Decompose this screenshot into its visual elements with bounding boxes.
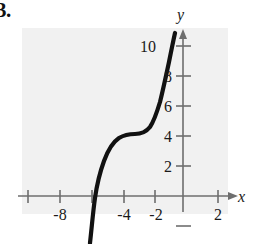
y-tick-label-4: 4 xyxy=(164,128,172,145)
graph-svg: x y 10 8 6 4 2 -8 -4 -2 2 xyxy=(0,0,258,244)
y-tick-label-6: 6 xyxy=(164,98,172,115)
x-tick-label-neg2: -2 xyxy=(149,206,162,223)
x-axis-label: x xyxy=(237,188,245,205)
figure-container: 3. xyxy=(0,0,258,244)
x-axis xyxy=(18,192,238,200)
x-tick-label-neg8: -8 xyxy=(53,206,66,223)
x-tick-label-2: 2 xyxy=(214,206,222,223)
y-tick-label-10: 10 xyxy=(140,38,156,55)
y-tick-label-8: 8 xyxy=(164,68,172,85)
y-axis xyxy=(179,29,187,212)
y-tick-label-2: 2 xyxy=(164,158,172,175)
x-tick-label-neg4: -4 xyxy=(117,206,130,223)
y-axis-label: y xyxy=(175,6,185,24)
